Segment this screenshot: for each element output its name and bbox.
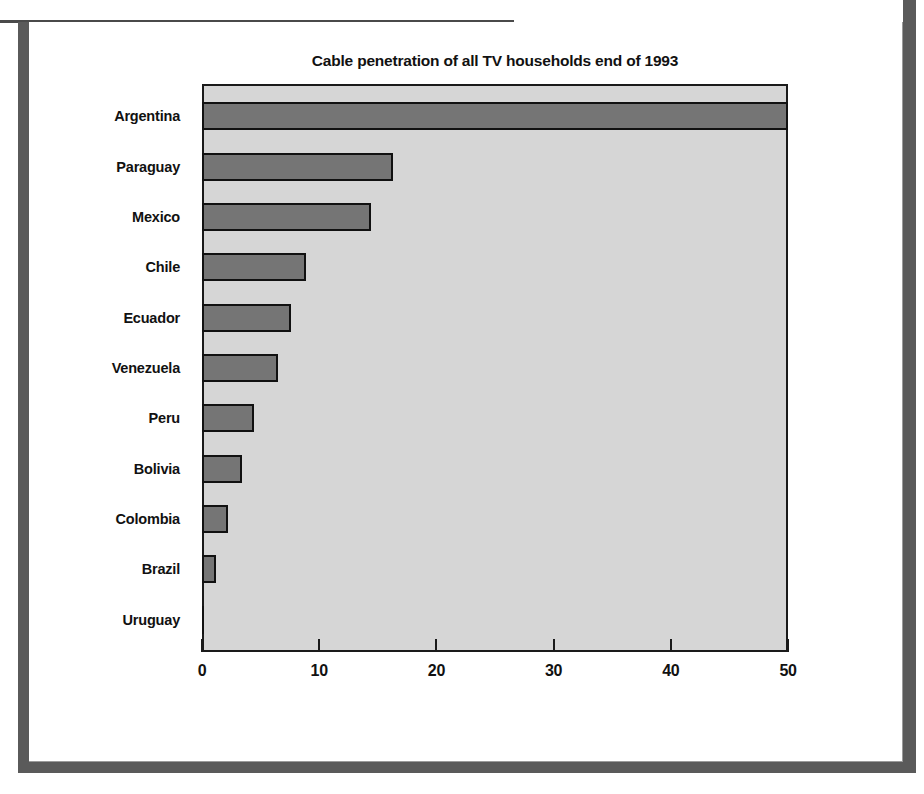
x-tick-mark-40 xyxy=(670,639,672,652)
y-label-uruguay: Uruguay xyxy=(123,606,180,634)
x-tick-label-20: 20 xyxy=(428,662,445,680)
x-tick-mark-20 xyxy=(435,639,437,652)
bar-ecuador xyxy=(202,304,291,332)
bar-mexico xyxy=(202,203,371,231)
y-label-peru: Peru xyxy=(149,404,180,432)
y-label-chile: Chile xyxy=(146,253,180,281)
x-axis: 01020304050 xyxy=(202,652,788,698)
bar-argentina xyxy=(202,102,788,130)
bar-peru xyxy=(202,404,254,432)
y-label-paraguay: Paraguay xyxy=(116,153,180,181)
bar-brazil xyxy=(202,555,216,583)
bar-chile xyxy=(202,253,306,281)
bar-fill xyxy=(202,505,228,533)
bar-series xyxy=(202,84,788,652)
x-tick-label-50: 50 xyxy=(779,662,796,680)
y-axis-category-labels: ArgentinaParaguayMexicoChileEcuadorVenez… xyxy=(40,84,192,652)
bar-chart: Cable penetration of all TV households e… xyxy=(0,0,924,794)
x-tick-mark-50 xyxy=(787,639,789,652)
bar-fill xyxy=(202,404,254,432)
bar-fill xyxy=(202,606,204,634)
scanned-page: Cable penetration of all TV households e… xyxy=(0,0,924,794)
bar-uruguay xyxy=(202,606,204,634)
bar-colombia xyxy=(202,505,228,533)
bar-fill xyxy=(202,455,242,483)
x-tick-label-0: 0 xyxy=(198,662,207,680)
x-tick-label-40: 40 xyxy=(662,662,679,680)
bar-bolivia xyxy=(202,455,242,483)
bar-fill xyxy=(202,153,393,181)
bar-fill xyxy=(202,203,371,231)
y-label-mexico: Mexico xyxy=(132,203,180,231)
chart-title: Cable penetration of all TV households e… xyxy=(202,52,788,70)
bar-paraguay xyxy=(202,153,393,181)
y-label-ecuador: Ecuador xyxy=(123,304,180,332)
x-tick-label-30: 30 xyxy=(545,662,562,680)
bar-fill xyxy=(202,555,216,583)
x-tick-mark-0 xyxy=(201,639,203,652)
y-label-argentina: Argentina xyxy=(114,102,180,130)
x-tick-mark-10 xyxy=(318,639,320,652)
x-tick-label-10: 10 xyxy=(311,662,328,680)
y-label-venezuela: Venezuela xyxy=(112,354,180,382)
x-tick-mark-30 xyxy=(553,639,555,652)
bar-fill xyxy=(202,304,291,332)
y-label-colombia: Colombia xyxy=(116,505,180,533)
y-label-brazil: Brazil xyxy=(142,555,180,583)
bar-fill xyxy=(202,354,278,382)
y-label-bolivia: Bolivia xyxy=(134,455,180,483)
bar-fill xyxy=(202,102,788,130)
bar-venezuela xyxy=(202,354,278,382)
bar-fill xyxy=(202,253,306,281)
